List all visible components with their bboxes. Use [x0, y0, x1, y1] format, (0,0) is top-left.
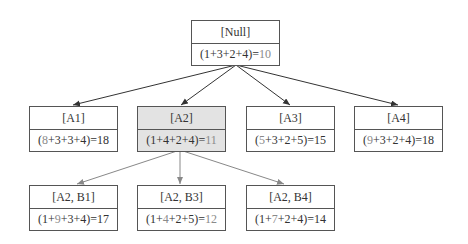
node-calc: (1+4+2+4)=11	[138, 130, 225, 151]
edge-null-a2	[181, 65, 236, 105]
node-label: [A2]	[138, 107, 225, 130]
node-a4: [A4] (9+3+2+4)=18	[354, 106, 443, 152]
node-a2-b1: [A2, B1] (1+9+3+4)=17	[29, 185, 118, 231]
node-a2-b4: [A2, B4] (1+7+2+4)=14	[246, 185, 335, 231]
node-calc: (9+3+2+4)=18	[355, 130, 442, 151]
node-a2: [A2] (1+4+2+4)=11	[137, 106, 226, 152]
calc-part: +3+4)=17	[61, 212, 109, 226]
node-calc: (1+7+2+4)=14	[247, 209, 334, 230]
node-calc: (1+4+2+5)=12	[138, 209, 225, 230]
calc-result: 11	[205, 133, 217, 147]
calc-part: (1+	[146, 212, 163, 226]
edge-null-a4	[236, 65, 398, 105]
node-label: [Null]	[192, 21, 279, 44]
edge-a2-b4	[180, 150, 284, 184]
node-label: [A2, B1]	[30, 186, 117, 209]
node-label: [A3]	[247, 107, 334, 130]
edge-null-a1	[73, 65, 236, 105]
calc-result: 10	[259, 47, 271, 61]
node-label: [A2, B3]	[138, 186, 225, 209]
a2-edges	[77, 150, 284, 184]
calc-part: +3+2+4)=18	[373, 133, 434, 147]
edge-null-a3	[236, 65, 290, 105]
calc-part: (1+	[255, 212, 272, 226]
calc-part: +3+2+5)=15	[265, 133, 326, 147]
node-calc: (1+9+3+4)=17	[30, 209, 117, 230]
node-label: [A4]	[355, 107, 442, 130]
node-calc: (8+3+3+4)=18	[30, 130, 117, 151]
calc-part: (1+	[38, 212, 55, 226]
node-null: [Null] (1+3+2+4)=10	[191, 20, 280, 66]
root-edges	[73, 65, 398, 105]
calc-part: +2+4)=14	[278, 212, 326, 226]
calc-part: +3+3+4)=18	[48, 133, 109, 147]
node-a3: [A3] (5+3+2+5)=15	[246, 106, 335, 152]
calc-expression: (1+4+2+4)=	[146, 133, 205, 147]
calc-part: +2+5)=	[169, 212, 205, 226]
node-label: [A1]	[30, 107, 117, 130]
node-calc: (1+3+2+4)=10	[192, 44, 279, 65]
node-calc: (5+3+2+5)=15	[247, 130, 334, 151]
node-a1: [A1] (8+3+3+4)=18	[29, 106, 118, 152]
calc-expression: (1+3+2+4)=	[200, 47, 259, 61]
edge-a2-b1	[77, 150, 180, 184]
node-a2-b3: [A2, B3] (1+4+2+5)=12	[137, 185, 226, 231]
node-label: [A2, B4]	[247, 186, 334, 209]
calc-result: 12	[205, 212, 217, 226]
